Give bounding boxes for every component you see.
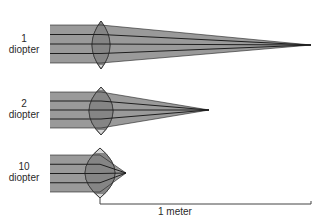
label-1-diopter: 1 diopter <box>2 33 46 55</box>
label-2-diopter: 2 diopter <box>2 98 46 120</box>
light-ray <box>50 173 126 174</box>
lens-diagram <box>0 0 324 220</box>
label-10-diopter: 10 diopter <box>2 161 46 183</box>
power-unit: diopter <box>2 109 46 120</box>
power-number: 1 <box>2 33 46 44</box>
power-unit: diopter <box>2 172 46 183</box>
one-meter-scale-bracket <box>100 197 311 204</box>
lens-2-diopter <box>50 87 209 135</box>
lens-10-diopter <box>50 148 126 198</box>
lens-1-diopter <box>50 21 311 69</box>
scale-label: 1 meter <box>158 206 192 217</box>
power-number: 10 <box>2 161 46 172</box>
power-unit: diopter <box>2 44 46 55</box>
power-number: 2 <box>2 98 46 109</box>
